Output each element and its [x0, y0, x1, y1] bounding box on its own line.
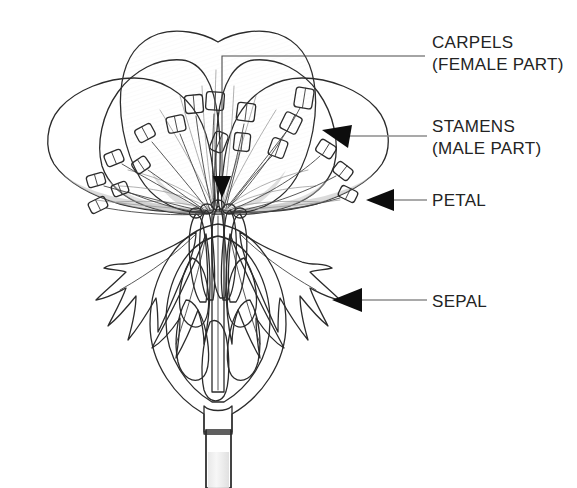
label-stamens-line1: STAMENS	[432, 117, 515, 136]
label-carpels-line2: (FEMALE PART)	[432, 55, 564, 74]
label-stamens-line2: (MALE PART)	[432, 139, 541, 158]
flower-diagram-svg: CARPELS (FEMALE PART) STAMENS (MALE PART…	[0, 0, 577, 488]
flower-anatomy-diagram: CARPELS (FEMALE PART) STAMENS (MALE PART…	[0, 0, 577, 488]
label-petal: PETAL	[432, 191, 486, 210]
label-carpels-line1: CARPELS	[432, 33, 513, 52]
label-sepal: SEPAL	[432, 292, 487, 311]
stem-lower-highlight	[208, 452, 229, 488]
